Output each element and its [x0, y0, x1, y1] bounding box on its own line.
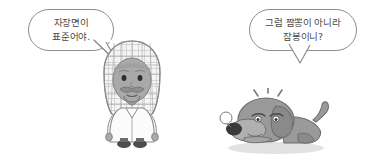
speech-bubble-right-tail-icon: [288, 44, 314, 68]
hand-right-icon: [152, 133, 159, 141]
speech-bubble-right-line-1: 그럼 짬뽕이 아니라: [265, 16, 340, 30]
eye-right-icon: [138, 75, 143, 81]
ground-shadow: [228, 142, 324, 154]
speech-bubble-left-line-2: 표준어야.: [52, 30, 90, 44]
hand-left-icon: [106, 133, 113, 141]
dog-tail-icon: [313, 102, 329, 122]
character-man-in-keffiyeh: [96, 38, 168, 150]
speech-bubble-right-line-2: 잠봉이니?: [283, 30, 323, 44]
eye-left-icon: [122, 75, 127, 81]
speech-bubble-left-line-1: 자장면이: [54, 16, 89, 30]
character-dog-lying-down: [218, 88, 338, 156]
alert-marks-icon: [254, 88, 282, 96]
comic-panel: 자장면이 표준어야. 그럼 짬뽕이 아니라 잠봉이니?: [0, 0, 377, 160]
